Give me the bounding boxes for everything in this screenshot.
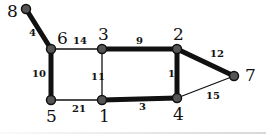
bottom-divider [0,132,266,134]
node-2 [173,45,182,54]
node-label: 3 [98,24,109,44]
edges-group [26,9,234,100]
node-label: 8 [7,1,18,21]
node-label: 1 [99,106,110,126]
node-6 [47,45,56,54]
node-label: 6 [57,28,68,48]
node-label: 4 [173,104,184,124]
node-label: 2 [173,24,184,44]
node-3 [98,45,107,54]
edge-weight-label: 11 [91,71,105,82]
edge-weight-label: 12 [210,48,224,59]
edge-1-4 [102,98,177,100]
edge-weight-label: 4 [29,27,36,38]
edge-weight-label: 1 [168,68,175,79]
node-label: 5 [46,106,57,126]
weighted-graph-diagram: 4149121011121315 86327514 [0,0,266,134]
node-1 [98,96,107,105]
node-8 [22,5,31,14]
edge-weight-label: 9 [136,35,143,46]
node-labels-group: 86327514 [7,1,256,126]
edge-weight-label: 15 [206,90,220,101]
node-4 [173,94,182,103]
node-7 [230,72,239,81]
edge-2-7 [177,49,234,76]
edge-weight-label: 3 [139,101,146,112]
node-label: 7 [245,65,256,85]
edge-weight-label: 10 [32,68,46,79]
edge-weight-label: 14 [73,35,87,46]
edge-weight-label: 21 [72,103,86,114]
node-5 [47,96,56,105]
